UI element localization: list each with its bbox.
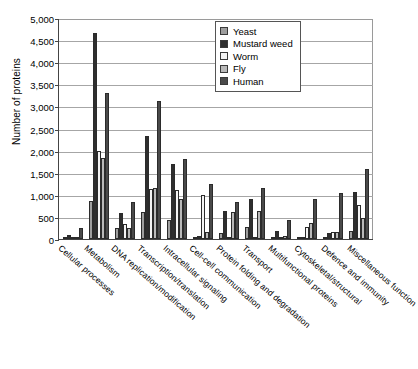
bar[interactable] bbox=[183, 159, 187, 239]
legend-swatch-icon bbox=[220, 77, 228, 85]
y-tick-label: 2,500 bbox=[30, 124, 54, 135]
bar-group bbox=[346, 19, 372, 239]
legend-label: Human bbox=[233, 76, 264, 87]
y-tick-mark bbox=[55, 240, 59, 241]
bar[interactable] bbox=[287, 220, 291, 239]
bar[interactable] bbox=[365, 169, 369, 239]
bar[interactable] bbox=[157, 101, 161, 239]
bar[interactable] bbox=[235, 202, 239, 239]
bar-group bbox=[190, 19, 216, 239]
y-tick-label: 3,500 bbox=[30, 80, 54, 91]
legend-item[interactable]: Fly bbox=[220, 63, 293, 76]
legend-swatch-icon bbox=[220, 27, 228, 35]
legend: YeastMustard weedWormFlyHuman bbox=[215, 21, 301, 92]
y-tick-label: 3,000 bbox=[30, 102, 54, 113]
legend-item[interactable]: Mustard weed bbox=[220, 38, 293, 51]
bar-group bbox=[112, 19, 138, 239]
bar-group bbox=[320, 19, 346, 239]
y-tick-label: 500 bbox=[38, 212, 54, 223]
legend-item[interactable]: Human bbox=[220, 75, 293, 88]
legend-swatch-icon bbox=[220, 65, 228, 73]
legend-label: Yeast bbox=[233, 26, 256, 37]
y-axis-title: Number of proteins bbox=[11, 12, 22, 192]
y-tick-label: 5,000 bbox=[30, 14, 54, 25]
y-tick-label: 2,000 bbox=[30, 146, 54, 157]
bar[interactable] bbox=[131, 202, 135, 239]
y-tick-label: 0 bbox=[49, 235, 54, 246]
bar-group bbox=[60, 19, 86, 239]
y-tick-label: 4,500 bbox=[30, 36, 54, 47]
legend-label: Worm bbox=[233, 51, 258, 62]
bar-group bbox=[164, 19, 190, 239]
y-tick-label: 1,500 bbox=[30, 168, 54, 179]
bar[interactable] bbox=[223, 211, 227, 239]
legend-item[interactable]: Worm bbox=[220, 50, 293, 63]
legend-label: Mustard weed bbox=[233, 38, 293, 49]
x-axis-labels: Cellular processesMetabolismDNA replicat… bbox=[58, 243, 373, 369]
bar-group bbox=[86, 19, 112, 239]
legend-swatch-icon bbox=[220, 52, 228, 60]
bar[interactable] bbox=[79, 228, 83, 239]
legend-label: Fly bbox=[233, 63, 246, 74]
bar[interactable] bbox=[339, 193, 343, 239]
bar-group bbox=[138, 19, 164, 239]
legend-swatch-icon bbox=[220, 40, 228, 48]
bar[interactable] bbox=[209, 184, 213, 239]
legend-item[interactable]: Yeast bbox=[220, 25, 293, 38]
bar[interactable] bbox=[313, 199, 317, 239]
bar[interactable] bbox=[249, 199, 253, 239]
bar[interactable] bbox=[261, 188, 265, 239]
y-tick-label: 4,000 bbox=[30, 58, 54, 69]
y-tick-label: 1,000 bbox=[30, 190, 54, 201]
bar[interactable] bbox=[105, 93, 109, 239]
